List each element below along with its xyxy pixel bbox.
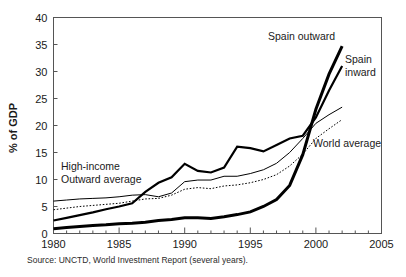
- annotation-spain-inward: Spaininward: [345, 53, 376, 78]
- y-tick-label: 40: [35, 12, 47, 24]
- y-tick-label: 5: [41, 201, 47, 213]
- y-tick-label: 35: [35, 39, 47, 51]
- x-tick-label: 2005: [369, 238, 393, 250]
- annotation-line: High-income: [61, 160, 120, 172]
- y-tick-label: 15: [35, 147, 47, 159]
- fdi-stock-line-chart: 0510152025303540 19801985199019952000200…: [0, 0, 406, 277]
- source-note: Source: UNCTD, World Investment Report (…: [27, 255, 248, 265]
- annotation-line: Spain outward: [268, 30, 335, 42]
- x-tick-label: 2000: [304, 238, 328, 250]
- annotation-spain-outward: Spain outward: [268, 30, 335, 42]
- x-tick-label: 1990: [172, 238, 196, 250]
- x-tick-label: 1980: [41, 238, 65, 250]
- annotation-line: inward: [345, 66, 376, 78]
- x-tick-label: 1995: [238, 238, 262, 250]
- y-tick-label: 30: [35, 66, 47, 78]
- annotation-world-average: World average: [313, 137, 381, 149]
- y-tick-label: 25: [35, 93, 47, 105]
- annotation-line: World average: [313, 137, 381, 149]
- y-tick-label: 10: [35, 174, 47, 186]
- x-tick-label: 1985: [107, 238, 131, 250]
- annotation-line: Outward average: [61, 173, 142, 185]
- y-tick-label: 20: [35, 120, 47, 132]
- y-axis-title: % of GDP: [7, 103, 19, 153]
- annotation-line: Spain: [345, 53, 372, 65]
